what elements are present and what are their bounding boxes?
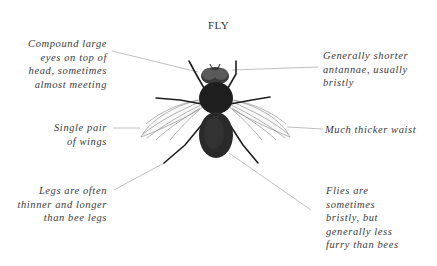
leader-line-waist xyxy=(287,127,323,129)
leader-line-legs xyxy=(114,163,164,190)
annotation-antennae: Generally shorter antannae, usually bris… xyxy=(323,49,408,90)
annotation-fur: Flies are sometimes bristly, but general… xyxy=(326,184,399,252)
compound-eye-right xyxy=(214,68,228,80)
leader-line-fur xyxy=(229,153,311,210)
wing-right xyxy=(230,100,290,140)
annotation-waist: Much thicker waist xyxy=(325,123,416,137)
fly-diagram: FLY xyxy=(0,0,437,266)
wing-left xyxy=(141,100,202,140)
annotation-eyes: Compound large eyes on top of head, some… xyxy=(0,37,107,91)
annotation-wings: Single pair of wings xyxy=(0,121,107,148)
compound-eye-left xyxy=(202,68,216,80)
fly-thorax xyxy=(199,82,233,114)
leader-line-eyes xyxy=(112,51,198,72)
leader-line-antennae xyxy=(232,67,318,70)
fly-icon xyxy=(141,61,290,163)
annotation-legs: Legs are often thinner and longer than b… xyxy=(0,184,107,225)
